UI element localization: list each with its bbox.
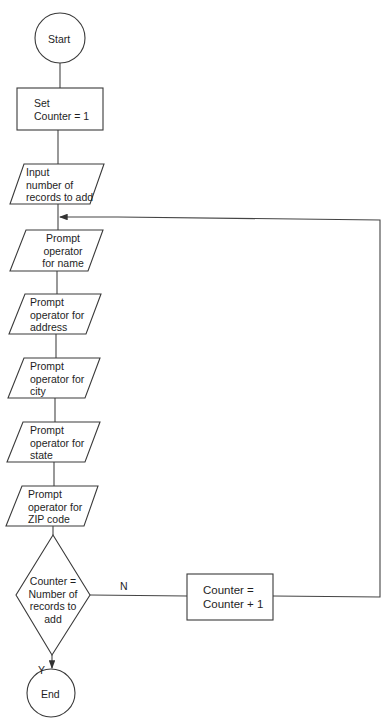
prompt-zip-label: Prompt operator for ZIP code xyxy=(28,488,82,526)
yes-branch-label: Y xyxy=(38,664,45,677)
end-label: End xyxy=(41,688,60,701)
no-branch-label: N xyxy=(120,580,128,593)
increment-counter-label: Counter = Counter + 1 xyxy=(203,583,263,611)
set-counter-label: Set Counter = 1 xyxy=(34,97,89,122)
prompt-city-label: Prompt operator for city xyxy=(30,360,84,398)
prompt-state-label: Prompt operator for state xyxy=(30,424,84,462)
input-records-label: Input number of records to add xyxy=(26,166,93,204)
decision-label: Counter = Number of records to add xyxy=(18,575,88,625)
start-label: Start xyxy=(48,33,70,46)
prompt-address-label: Prompt operator for address xyxy=(30,296,84,334)
prompt-name-label: Prompt operator for name xyxy=(30,232,96,270)
